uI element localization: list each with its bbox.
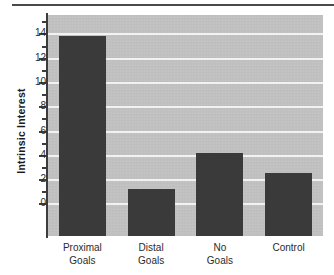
bar-no-goals — [196, 153, 243, 236]
y-tick-minor-11 — [42, 70, 47, 72]
y-tick-label-10: 10 — [20, 76, 46, 87]
bar-distal-goals — [128, 189, 175, 236]
bar-control — [265, 173, 312, 236]
y-tick-label-14: 14 — [20, 27, 46, 38]
figure: Intrinsic Interest 02468101214 Proximal … — [0, 0, 334, 275]
y-tick-label-4: 4 — [20, 149, 46, 160]
y-tick-label-6: 6 — [20, 125, 46, 136]
y-tick-label-2: 2 — [20, 173, 46, 184]
y-tick-minor-9 — [42, 94, 47, 96]
y-tick-minor-13 — [42, 46, 47, 48]
figure-top-rule — [12, 4, 334, 6]
y-tick-label-0: 0 — [20, 197, 46, 208]
y-tick-minor-1 — [42, 191, 47, 193]
bar-proximal-goals — [59, 36, 106, 236]
y-tick-label-12: 12 — [20, 52, 46, 63]
y-tick-minor-5 — [42, 143, 47, 145]
y-tick-minor-3 — [42, 167, 47, 169]
y-tick-minor-15 — [42, 21, 47, 23]
x-tick-label-control: Control — [244, 242, 334, 255]
y-tick-minor-7 — [42, 118, 47, 120]
y-tick-label-8: 8 — [20, 100, 46, 111]
plot-area — [48, 15, 323, 236]
